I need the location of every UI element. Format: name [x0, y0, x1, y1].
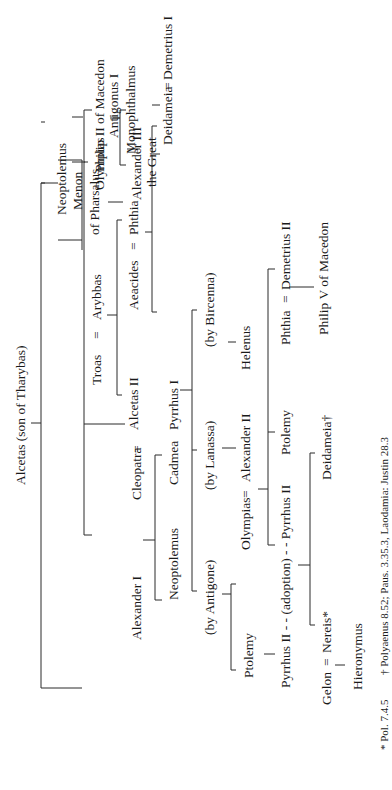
label-by-bircenna: (by Bircenna) — [202, 272, 217, 347]
person-olympias-ii: Olympias — [238, 498, 253, 551]
person-antigonus-epithet: Monophthalmus — [123, 65, 138, 154]
person-menon: Menon — [70, 172, 85, 210]
marriage-sign: = — [238, 490, 253, 498]
person-alcetas-ii: Alcetas II — [126, 377, 141, 430]
person-philip-v: Philip V of Macedon — [316, 222, 331, 335]
person-neoptolemus: Neoptolemus — [54, 143, 69, 215]
marriage-sign: = — [160, 82, 175, 90]
person-deidameia-ii: Deidameia† — [319, 415, 334, 480]
person-antigonus: Antigonus I — [106, 73, 121, 138]
person-aeacides: Aeacides — [126, 261, 141, 310]
footnote-star: * Pol. 7.4.5 — [378, 699, 390, 750]
person-phthia: Phthia — [126, 200, 141, 235]
person-hieronymus: Hieronymus — [350, 623, 365, 690]
label-by-antigone: (by Antigone) — [202, 560, 217, 635]
marriage-sign: = — [278, 295, 293, 303]
person-alexander-ii: Alexander II — [238, 413, 253, 482]
person-arybbas: Arybbas — [89, 274, 104, 320]
label-by-lanassa: (by Lanassa) — [202, 421, 217, 490]
person-ptolemy: Ptolemy — [241, 633, 256, 678]
person-philip-ii: Philip II of Macedon — [92, 59, 107, 172]
genealogy-diagram: Alcetas (son of Tharybas) Neoptolemus Ol… — [0, 0, 392, 790]
person-helenus: Helenus — [238, 326, 253, 370]
person-demetrius-i: Demetrius I — [160, 15, 175, 80]
adoption-line: Pyrrhus II - - (adoption) - - Pyrrhus II — [278, 484, 293, 688]
person-alexander-iii-epithet: the Great — [144, 137, 159, 187]
marriage-sign: = — [319, 658, 334, 666]
person-demetrius-ii: Demetrius II — [278, 221, 293, 290]
marriage-sign: = — [126, 242, 141, 250]
person-deidameia: Deidameia — [160, 87, 175, 145]
footnote-dagger: † Polyaenus 8.52; Paus. 3.35.3, Laodamia… — [378, 436, 390, 675]
person-neoptolemus-ii: Neoptolemus — [166, 528, 181, 600]
person-gelon: Gelon — [319, 672, 334, 705]
marriage-sign: = — [89, 331, 104, 339]
person-nereis: Nereis* — [319, 611, 334, 653]
person-phthia-ii: Phthia — [278, 310, 293, 345]
marriage-sign: = — [129, 445, 144, 453]
person-menon-origin: of Pharsalus — [87, 169, 102, 235]
person-pyrrhus-i: Pyrrhus I — [166, 380, 181, 430]
person-cadmea: Cadmea — [166, 441, 181, 485]
person-troas: Troas — [89, 355, 104, 385]
person-alexander-i: Alexander I — [129, 575, 144, 640]
person-cleopatra: Cleopatra — [129, 448, 144, 500]
person-alcetas: Alcetas (son of Tharybas) — [13, 345, 28, 485]
person-ptolemy-ii: Ptolemy — [278, 410, 293, 455]
family-tree: Alcetas (son of Tharybas) Neoptolemus Ol… — [0, 0, 392, 790]
